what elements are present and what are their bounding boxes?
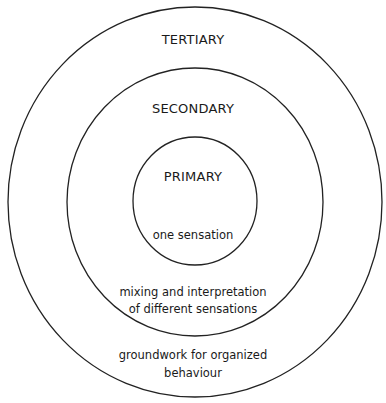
tertiary-description-line-2: behaviour bbox=[0, 365, 386, 381]
tertiary-description-line-1: groundwork for organized bbox=[0, 347, 386, 363]
secondary-title: SECONDARY bbox=[0, 101, 386, 117]
tertiary-title: TERTIARY bbox=[0, 32, 386, 48]
primary-title: PRIMARY bbox=[0, 169, 386, 185]
primary-ring bbox=[133, 137, 257, 265]
primary-description: one sensation bbox=[0, 227, 386, 243]
secondary-description-line-2: of different sensations bbox=[0, 301, 386, 317]
tertiary-ring bbox=[8, 7, 382, 397]
concentric-rings bbox=[0, 0, 386, 403]
secondary-description-line-1: mixing and interpretation bbox=[0, 284, 386, 300]
